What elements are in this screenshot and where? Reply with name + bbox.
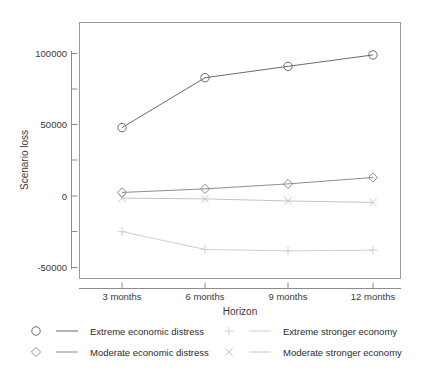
x-axis-title: Horizon bbox=[223, 306, 257, 317]
y-axis: 100000 50000 0 -50000 Scenario loss bbox=[19, 48, 78, 273]
scenario-loss-line-chart: 100000 50000 0 -50000 Scenario loss 3 mo… bbox=[0, 0, 433, 380]
plot-panel-border bbox=[80, 23, 401, 279]
x-tick-label-12-months: 12 months bbox=[351, 291, 396, 302]
legend-label: Extreme economic distress bbox=[90, 326, 204, 337]
chart-page: 100000 50000 0 -50000 Scenario loss 3 mo… bbox=[0, 0, 433, 380]
y-tick-label-50000: 50000 bbox=[41, 119, 67, 130]
legend-label: Moderate economic distress bbox=[90, 347, 209, 358]
legend-item-diamond[interactable]: Moderate economic distress bbox=[31, 347, 209, 358]
legend-item-cross[interactable]: Moderate stronger economy bbox=[225, 347, 402, 358]
series-cross bbox=[118, 195, 376, 206]
series-diamond bbox=[117, 173, 377, 197]
chart-legend: Extreme economic distressModerate econom… bbox=[31, 326, 402, 358]
y-tick-label-0: 0 bbox=[62, 191, 67, 202]
x-tick-label-6-months: 6 months bbox=[185, 291, 224, 302]
marker-plus bbox=[225, 327, 234, 336]
legend-label: Moderate stronger economy bbox=[283, 347, 402, 358]
y-tick-label-negative-50000: -50000 bbox=[37, 262, 67, 273]
y-axis-title: Scenario loss bbox=[19, 130, 30, 190]
marker-circle bbox=[32, 327, 40, 335]
legend-item-plus[interactable]: Extreme stronger economy bbox=[225, 326, 398, 337]
marker-plus bbox=[369, 246, 378, 255]
series-plus bbox=[118, 227, 378, 255]
marker-plus bbox=[201, 245, 210, 254]
x-tick-label-3-months: 3 months bbox=[102, 291, 141, 302]
series-layer bbox=[117, 51, 377, 256]
x-tick-label-9-months: 9 months bbox=[268, 291, 307, 302]
legend-label: Extreme stronger economy bbox=[283, 326, 397, 337]
x-axis: 3 months 6 months 9 months 12 months Hor… bbox=[79, 283, 401, 318]
y-tick-label-100000: 100000 bbox=[35, 48, 67, 59]
marker-diamond bbox=[31, 347, 40, 356]
marker-plus bbox=[118, 227, 127, 236]
series-circle bbox=[118, 51, 377, 132]
legend-item-circle[interactable]: Extreme economic distress bbox=[32, 326, 204, 337]
marker-plus bbox=[284, 246, 293, 255]
marker-cross bbox=[225, 348, 232, 355]
marker-circle bbox=[118, 123, 126, 131]
